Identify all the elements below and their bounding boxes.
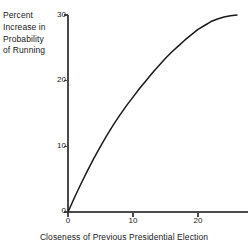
- y-tick-label-20: 20: [44, 75, 66, 84]
- chart-figure: Percent Increase in Probability of Runni…: [0, 0, 248, 247]
- x-tick-label-20: 20: [188, 216, 208, 225]
- y-tick-label-0: 0: [44, 206, 66, 215]
- y-axis-label-line-2: Increase in: [3, 22, 55, 34]
- y-tick-label-10: 10: [44, 141, 66, 150]
- x-tick-label-0: 0: [58, 216, 78, 225]
- y-tick-label-30: 30: [44, 10, 66, 19]
- y-axis-label-line-3: Probability: [3, 34, 55, 46]
- y-axis-label-line-4: of Running: [3, 45, 55, 57]
- x-axis-label: Closeness of Previous Presidential Elect…: [0, 232, 248, 242]
- data-line-series-0: [68, 15, 237, 212]
- x-tick-label-10: 10: [123, 216, 143, 225]
